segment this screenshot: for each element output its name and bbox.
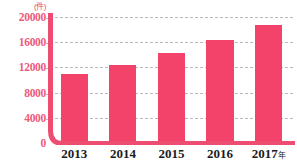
bar-slot (109, 13, 136, 143)
bar-2016[interactable] (206, 40, 233, 143)
y-axis-tick-label: 12000 (0, 61, 46, 73)
bar-2013[interactable] (61, 74, 88, 143)
x-axis-tick-value: 2016 (207, 146, 233, 161)
x-axis-tick-label: 2014 (99, 146, 148, 162)
bar-2015[interactable] (158, 53, 185, 143)
bar-slot (206, 13, 233, 143)
bar-2017[interactable] (255, 25, 282, 143)
bar-slot (158, 13, 185, 143)
x-axis-tick-suffix: 年 (278, 151, 286, 160)
y-axis-tick-label: 0 (0, 137, 46, 149)
x-axis-tick-label: 2017年 (244, 146, 293, 164)
bar-slot (255, 13, 282, 143)
y-axis-tick-label: 20000 (0, 11, 46, 23)
bar-series (50, 13, 293, 143)
plot-area (50, 13, 293, 143)
x-axis-tick-label: 2016 (196, 146, 245, 162)
x-axis-labels: 20132014201520162017年 (50, 146, 293, 166)
x-axis-tick-label: 2013 (50, 146, 99, 162)
bar-2014[interactable] (109, 65, 136, 143)
y-axis-tick-label: 16000 (0, 36, 46, 48)
y-axis-tick-label: 4000 (0, 112, 46, 124)
x-axis-tick-value: 2013 (61, 146, 87, 161)
x-axis-tick-value: 2014 (110, 146, 136, 161)
bar-chart: (件) 040008000120001600020000 20132014201… (0, 0, 297, 167)
x-axis-tick-value: 2015 (158, 146, 184, 161)
y-axis-labels: 040008000120001600020000 (0, 0, 46, 167)
bar-slot (61, 13, 88, 143)
x-axis-tick-label: 2015 (147, 146, 196, 162)
x-axis-tick-value: 2017 (252, 146, 278, 161)
y-axis-tick-label: 8000 (0, 87, 46, 99)
